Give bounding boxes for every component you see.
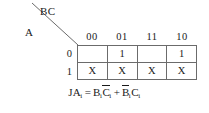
kmap-cell-r1c1: X: [108, 63, 138, 79]
term2-var1-subscript: i: [129, 92, 131, 100]
term1-var1-subscript: i: [100, 92, 102, 100]
kmap-row-1: X X X X: [78, 63, 196, 79]
column-header-2: 11: [137, 30, 167, 44]
kmap-cell-r0c0: [78, 46, 108, 62]
equation-lhs-subscript: i: [80, 92, 82, 100]
row-header-1: 1: [58, 63, 74, 81]
column-axis-label: BC: [40, 5, 55, 17]
term2-var2-subscript: i: [138, 92, 140, 100]
row-header-column: 0 1: [58, 45, 74, 80]
kmap-row-0: 1 1: [78, 46, 196, 63]
kmap-grid: 1 1 X X X X: [77, 45, 197, 80]
plus-sign: +: [112, 86, 122, 98]
equation-lhs: JA: [68, 86, 81, 98]
kmap-cell-r1c0: X: [78, 63, 108, 79]
term1-var2-subscript: i: [109, 92, 111, 100]
column-header-0: 00: [77, 30, 107, 44]
kmap-cell-r0c3: 1: [167, 46, 196, 62]
column-header-3: 10: [167, 30, 197, 44]
kmap-cell-r1c3: X: [167, 63, 196, 79]
row-header-0: 0: [58, 45, 74, 63]
karnaugh-map-figure: BC A 00 01 11 10 0 1 1 1 X X X X JAi=BiC…: [0, 0, 209, 113]
kmap-cell-r0c2: [138, 46, 168, 62]
column-header-1: 01: [107, 30, 137, 44]
column-header-row: 00 01 11 10: [77, 30, 197, 44]
equals-sign: =: [83, 86, 93, 98]
equation-term-1: BiCi: [93, 86, 112, 98]
kmap-cell-r0c1: 1: [108, 46, 138, 62]
equation-term-2: BiCi: [122, 86, 141, 98]
kmap-cell-r1c2: X: [138, 63, 168, 79]
boolean-equation: JAi=BiCi+BiCi: [0, 85, 209, 101]
row-axis-label: A: [25, 26, 33, 38]
